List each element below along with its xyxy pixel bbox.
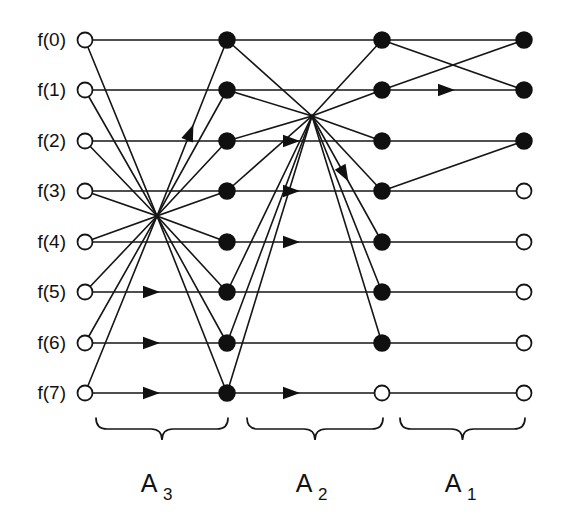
node-c0-r0-open — [78, 33, 93, 48]
node-c2-r4-filled — [374, 234, 390, 250]
row-label-layer: f(0)f(1)f(2)f(3)f(4)f(5)f(6)f(7) — [38, 29, 67, 403]
node-c3-r0-filled — [516, 32, 532, 48]
node-c3-r2-filled — [516, 133, 532, 149]
fft-signal-flow-figure: f(0)f(1)f(2)f(3)f(4)f(5)f(6)f(7) A3A2A1 — [0, 0, 566, 516]
node-c3-r3-open — [517, 184, 532, 199]
row-label-2: f(2) — [38, 130, 67, 151]
node-c1-r1-filled — [219, 82, 235, 98]
node-c0-r2-open — [78, 134, 93, 149]
stage-label-main-0: A — [141, 469, 158, 497]
node-c0-r5-open — [78, 285, 93, 300]
edge-s2-r6-to-r5 — [227, 116, 382, 343]
arrowhead-s2-r3-to-r3 — [283, 185, 300, 197]
node-c0-r1-open — [78, 83, 93, 98]
edge-s1-r3-to-r2 — [382, 141, 524, 191]
node-c2-r0-filled — [374, 32, 390, 48]
arrowhead-s3-r4-to-r0 — [181, 124, 193, 142]
node-c2-r6-filled — [374, 335, 390, 351]
brace-layer — [96, 418, 525, 440]
arrowhead-s2-r4-to-r4 — [283, 236, 300, 248]
node-c2-r5-filled — [374, 284, 390, 300]
node-c2-r1-filled — [374, 82, 390, 98]
node-c2-r7-open — [375, 386, 390, 401]
flow-graph-canvas: f(0)f(1)f(2)f(3)f(4)f(5)f(6)f(7) A3A2A1 — [0, 0, 566, 516]
arrowhead-s3-r6-to-r6 — [143, 337, 160, 349]
node-c1-r0-filled — [219, 32, 235, 48]
brace-stage-A1 — [400, 418, 525, 440]
stage-label-sub-2: 1 — [467, 485, 476, 504]
node-c2-r2-filled — [374, 133, 390, 149]
node-c1-r6-filled — [219, 335, 235, 351]
row-label-4: f(4) — [38, 231, 67, 252]
node-c0-r4-open — [78, 235, 93, 250]
node-c3-r7-open — [517, 386, 532, 401]
arrowhead-s3-r7-to-r7 — [143, 387, 160, 399]
node-c3-r1-filled — [516, 82, 532, 98]
node-c2-r3-filled — [374, 183, 390, 199]
stage-label-sub-0: 3 — [163, 485, 172, 504]
stage-label-layer: A3A2A1 — [141, 469, 477, 504]
node-c0-r7-open — [78, 386, 93, 401]
row-label-7: f(7) — [38, 382, 67, 403]
node-c3-r5-open — [517, 285, 532, 300]
node-c1-r4-filled — [219, 234, 235, 250]
arrowhead-s1-r1-to-r1 — [438, 84, 455, 96]
node-c3-r4-open — [517, 235, 532, 250]
node-c1-r7-filled — [219, 385, 235, 401]
node-c1-r3-filled — [219, 183, 235, 199]
stage-label-main-1: A — [296, 469, 313, 497]
brace-stage-A2 — [247, 418, 383, 440]
edge-s2-r7-to-r6 — [227, 116, 382, 393]
brace-stage-A3 — [96, 418, 228, 440]
node-c0-r6-open — [78, 336, 93, 351]
node-c1-r2-filled — [219, 133, 235, 149]
stage-label-main-2: A — [445, 469, 462, 497]
arrowhead-s2-r7-to-r7 — [283, 387, 300, 399]
row-label-3: f(3) — [38, 180, 67, 201]
row-label-1: f(1) — [38, 79, 67, 100]
row-label-6: f(6) — [38, 332, 67, 353]
node-c3-r6-open — [517, 336, 532, 351]
arrowhead-s3-r5-to-r5 — [143, 286, 160, 298]
stage-label-sub-1: 2 — [318, 485, 327, 504]
node-c0-r3-open — [78, 184, 93, 199]
row-label-5: f(5) — [38, 281, 67, 302]
row-label-0: f(0) — [38, 29, 67, 50]
node-c1-r5-filled — [219, 284, 235, 300]
